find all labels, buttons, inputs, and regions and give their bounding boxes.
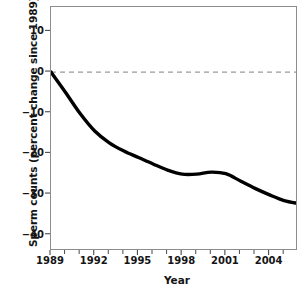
data-line-svg [51,7,297,250]
x-axis-tick-label: 1998 [167,255,195,266]
plot-area [50,6,297,250]
x-axis-tick-label: 2001 [211,255,239,266]
x-axis-title-text: Year [164,274,190,286]
x-axis-tick-label: 1992 [80,255,108,266]
chart-container: Sperm counts (percent change since 1989)… [0,0,306,300]
x-axis-tick-label: 2004 [255,255,283,266]
x-axis-tick-label: 1989 [36,255,64,266]
x-axis-tick-label: 1995 [123,255,151,266]
x-axis-title: Year [0,274,306,286]
sperm-count-trend-line [51,72,297,203]
